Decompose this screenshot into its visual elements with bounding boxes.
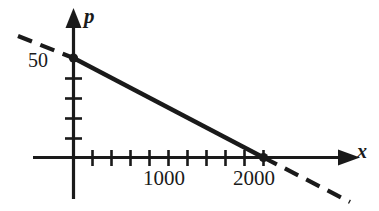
graph-figure: p x 50 1000 2000 [0,0,379,211]
y-axis-label: p [84,6,95,27]
p-intercept-marker [69,53,78,62]
y-tick-label-50: 50 [28,50,48,70]
y-axis-arrowhead [66,8,82,28]
x-tick-label-2000: 2000 [233,168,275,189]
dashed-extension-lower-right [264,158,351,203]
x-intercept-marker [259,153,268,162]
demand-line-solid [74,58,264,158]
plot-canvas [0,0,379,211]
x-axis-label: x [357,141,367,161]
y-axis-group [66,8,82,199]
x-tick-label-1000: 1000 [143,168,185,189]
x-axis-group [33,150,360,166]
